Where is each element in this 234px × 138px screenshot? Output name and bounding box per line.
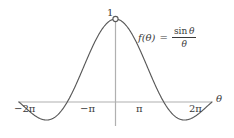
x-tick-label-2pi: 2π [189, 104, 202, 114]
equation-numerator: sin θ [172, 26, 197, 37]
peak-value-label: 1 [107, 8, 113, 18]
equation-fraction: sin θ θ [172, 26, 197, 49]
x-axis-label-theta: θ [216, 94, 222, 104]
equation-sin-function: sin [174, 26, 187, 36]
equation-denominator: θ [179, 38, 188, 49]
equation-numerator-variable: θ [189, 26, 194, 36]
sinc-plot-svg [0, 0, 234, 138]
function-equation: f(θ) = sin θ θ [138, 26, 196, 49]
equation-lhs: f(θ) [138, 32, 156, 43]
peak-open-circle-marker [113, 16, 118, 21]
x-tick-label-pi: π [136, 104, 143, 114]
x-tick-label-neg-pi: −π [80, 104, 95, 114]
sinc-function-figure: 1 −2π −π π 2π θ f(θ) = sin θ θ [0, 0, 234, 138]
equation-equals-sign: = [160, 32, 168, 43]
x-tick-label-neg-2pi: −2π [14, 104, 35, 114]
